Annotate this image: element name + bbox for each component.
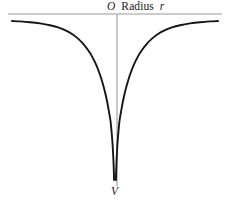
radius-symbol-label: r bbox=[160, 0, 165, 12]
vertex-label: V bbox=[111, 186, 118, 198]
potential-curve-right-branch bbox=[116, 21, 218, 180]
potential-well-figure: O Radius r V bbox=[0, 0, 230, 202]
radius-word-label: Radius bbox=[121, 0, 154, 12]
potential-well-plot bbox=[0, 0, 230, 202]
horizontal-axis-label: O Radius r bbox=[107, 1, 164, 13]
potential-curve-left-branch bbox=[12, 21, 114, 180]
